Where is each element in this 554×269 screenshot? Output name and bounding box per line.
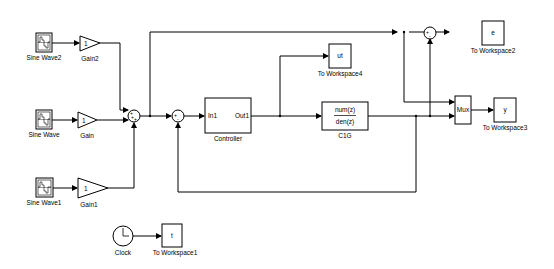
gain2-block[interactable]: 1 Gain2 <box>80 36 100 62</box>
ws1-label: To Workspace1 <box>153 249 198 257</box>
ws4-label: To Workspace4 <box>318 70 363 78</box>
sine-wave2-block[interactable]: Sine Wave2 <box>27 33 62 61</box>
clock-block[interactable]: Clock <box>113 226 133 256</box>
mux-block[interactable]: Mux <box>455 96 471 124</box>
to-workspace4-block[interactable]: ut To Workspace4 <box>318 44 363 78</box>
c1g-transfer-fcn[interactable]: num(z) den(z) C1G <box>322 102 368 139</box>
clock-label: Clock <box>115 249 132 256</box>
gain2-value: 1 <box>84 40 88 47</box>
sum1-sign: + <box>134 116 137 122</box>
simulink-diagram: Sine Wave2 Sine Wave Sine Wave1 1 Gain2 … <box>0 0 554 269</box>
to-workspace1-block[interactable]: t To Workspace1 <box>153 224 198 257</box>
sine-wave-block[interactable]: Sine Wave <box>28 110 60 138</box>
to-workspace3-block[interactable]: y To Workspace3 <box>483 98 528 132</box>
sine-wave1-block[interactable]: Sine Wave1 <box>27 178 62 206</box>
controller-out-port: Out1 <box>235 112 249 119</box>
gain1-label: Gain1 <box>80 201 98 208</box>
ws2-label: To Workspace2 <box>471 47 516 55</box>
sine-wave1-label: Sine Wave1 <box>27 199 62 206</box>
gain1-value: 1 <box>84 185 88 192</box>
ws1-variable: t <box>171 232 173 239</box>
c1g-denominator: den(z) <box>336 118 354 126</box>
sum1-block[interactable]: + + + <box>128 110 140 122</box>
sum3-block[interactable]: + - <box>424 27 436 39</box>
gain-label: Gain <box>80 132 94 139</box>
gain2-label: Gain2 <box>81 55 99 62</box>
sine-wave2-label: Sine Wave2 <box>27 54 62 61</box>
controller-label: Controller <box>214 135 243 142</box>
c1g-numerator: num(z) <box>335 106 355 114</box>
gain1-block[interactable]: 1 Gain1 <box>78 178 108 208</box>
sum2-block[interactable]: + - <box>172 110 184 122</box>
controller-in-port: In1 <box>208 112 217 119</box>
sine-wave-label: Sine Wave <box>28 131 60 138</box>
ws3-label: To Workspace3 <box>483 124 528 132</box>
mux-label: Mux <box>457 106 470 113</box>
to-workspace2-block[interactable]: e To Workspace2 <box>471 21 516 55</box>
controller-subsystem[interactable]: In1 Out1 Controller <box>205 98 251 142</box>
gain-block[interactable]: 1 Gain <box>78 112 97 139</box>
ws2-variable: e <box>491 29 495 36</box>
gain-value: 1 <box>82 117 86 124</box>
signal-lines <box>52 31 493 236</box>
ws4-variable: ut <box>337 52 343 59</box>
c1g-label: C1G <box>338 132 351 139</box>
